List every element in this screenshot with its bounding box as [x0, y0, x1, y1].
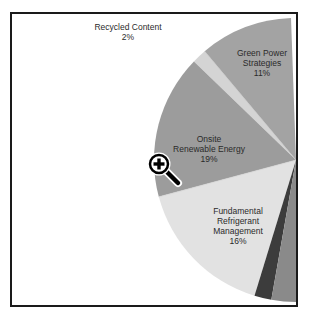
label-text: Green Power — [237, 48, 287, 58]
label-recycled-content: Recycled Content 2% — [94, 22, 161, 42]
label-text: Renewable Energy — [173, 144, 245, 154]
label-value: 11% — [237, 68, 287, 78]
label-text: Management — [213, 226, 263, 236]
label-text: Fundamental — [213, 206, 263, 216]
label-value: 19% — [173, 154, 245, 164]
label-text: Recycled Content — [94, 22, 161, 32]
label-text: Refrigerant — [213, 216, 263, 226]
label-onsite-renewable: Onsite Renewable Energy 19% — [173, 134, 245, 164]
label-value: 2% — [94, 32, 161, 42]
label-green-power: Green Power Strategies 11% — [237, 48, 287, 78]
zoom-in-icon[interactable] — [147, 152, 183, 188]
label-fundamental-refrigerant: Fundamental Refrigerant Management 16% — [213, 206, 263, 246]
label-value: 16% — [213, 236, 263, 246]
label-text: Strategies — [237, 58, 287, 68]
label-text: Onsite — [173, 134, 245, 144]
